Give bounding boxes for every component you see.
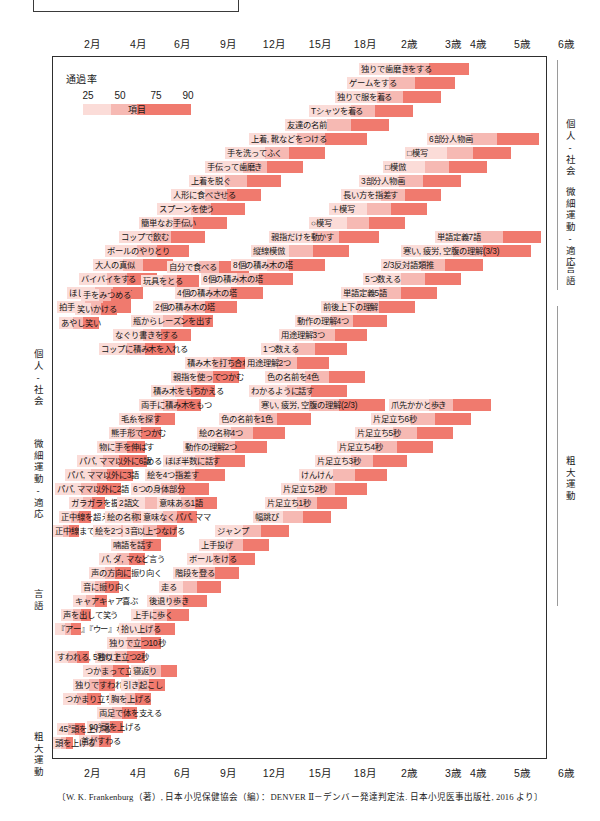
- axis-bottom-tick: 18月: [354, 765, 376, 780]
- milestone-bar-segment: [69, 525, 79, 537]
- milestone-bar: 階段を登る: [173, 567, 239, 579]
- milestone-bar-segment: [163, 315, 183, 327]
- axis-top-tick: 12月: [263, 36, 285, 51]
- milestone-bar: 3部分人物画: [359, 175, 461, 187]
- milestone-bar-segment: [199, 261, 219, 273]
- milestone-bar-segment: [277, 357, 297, 369]
- milestone-bar: 6個の積み木の塔: [201, 273, 293, 285]
- milestone-bar-segment: [235, 441, 267, 453]
- milestone-bar: 両手に積み木をもつ: [139, 399, 201, 411]
- milestone-bar-segment: [57, 723, 68, 735]
- milestone-bar-segment: [237, 273, 259, 285]
- milestone-bar-segment: [261, 343, 295, 355]
- axis-top-tick: 5歳: [514, 36, 530, 51]
- category-label-right: 微細運動-適応: [565, 187, 575, 269]
- milestone-bar-segment: [75, 303, 91, 315]
- milestone-bar: 親指を使ってつかむ: [171, 371, 239, 383]
- milestone-bar-segment: [68, 651, 77, 663]
- milestone-bar: 幅跳び: [253, 511, 331, 523]
- category-label-left: 微細運動-適応: [33, 439, 43, 521]
- milestone-bar-segment: [269, 231, 313, 243]
- milestone-bar-segment: [155, 623, 175, 635]
- milestone-bar-segment: [245, 357, 277, 369]
- milestone-bar-segment: [429, 63, 469, 75]
- milestone-bar-segment: [117, 497, 145, 509]
- milestone-bar-segment: [289, 147, 325, 159]
- milestone-bar-segment: [153, 609, 167, 621]
- milestone-bar-segment: [145, 343, 175, 355]
- milestone-bar-segment: [473, 147, 511, 159]
- axis-bottom-tick: 15月: [309, 765, 331, 780]
- milestone-bar-segment: [231, 287, 263, 299]
- milestone-bar: 片足立ち6秒: [371, 413, 471, 425]
- milestone-bar-segment: [103, 455, 119, 467]
- axis-bottom-tick: 6月: [174, 765, 190, 780]
- milestone-bar-segment: [453, 399, 491, 411]
- milestone-bar: 瓶からレーズンを出す: [131, 315, 213, 327]
- milestone-bar-segment: [391, 203, 427, 215]
- milestone-bar-segment: [131, 539, 143, 551]
- milestone-bar: 手を洗ってふく: [225, 147, 325, 159]
- legend-title: 通過率: [66, 71, 216, 86]
- milestone-bar-segment: [167, 261, 199, 273]
- milestone-bar-segment: [79, 735, 91, 747]
- milestone-bar-segment: [425, 161, 449, 173]
- milestone-bar: 上手投げ: [199, 539, 269, 551]
- milestone-bar-segment: [471, 133, 497, 145]
- milestone-bar-segment: [173, 567, 199, 579]
- milestone-bar-segment: [122, 707, 137, 719]
- milestone-bar-segment: [99, 343, 127, 355]
- milestone-bar-segment: [113, 329, 143, 341]
- milestone-bar-segment: [69, 497, 83, 509]
- milestone-bar-segment: [141, 275, 163, 287]
- header-stub-box: [33, 0, 239, 12]
- milestone-bar: 上着を脱ぐ: [189, 175, 281, 187]
- milestone-bar: なぐり書きをする: [113, 329, 191, 341]
- category-divider-rule: [557, 306, 558, 606]
- milestone-bar-segment: [449, 161, 487, 173]
- milestone-bar-segment: [503, 231, 541, 243]
- milestone-bar-segment: [281, 483, 315, 495]
- milestone-bar-segment: [169, 595, 183, 607]
- milestone-bar-segment: [401, 273, 425, 285]
- milestone-bar-segment: [289, 245, 313, 257]
- milestone-bar-segment: [219, 413, 255, 425]
- milestone-bar: 独りで服を着る: [335, 91, 441, 103]
- milestone-bar-segment: [183, 441, 215, 453]
- milestone-bar-segment: [123, 259, 143, 271]
- milestone-bar-segment: [209, 287, 231, 299]
- milestone-bar-segment: [339, 399, 385, 411]
- milestone-bar: わかるように話す: [249, 385, 347, 397]
- axis-bottom-tick: 3歳: [445, 765, 461, 780]
- milestone-bar-segment: [65, 469, 91, 481]
- milestone-bar-segment: [295, 343, 315, 355]
- milestone-bar-segment: [87, 721, 101, 733]
- milestone-bar-segment: [115, 441, 127, 453]
- milestone-bar-segment: [87, 693, 101, 705]
- milestone-bar-segment: [77, 693, 87, 705]
- milestone-bar: ボールをける: [187, 553, 255, 565]
- milestone-bar-segment: [73, 317, 83, 329]
- milestone-bar: 上着, 靴などをつける: [249, 133, 367, 145]
- milestone-bar-segment: [193, 217, 227, 229]
- milestone-bar-segment: [215, 525, 243, 537]
- milestone-bar-segment: [195, 469, 225, 481]
- milestone-bar-segment: [249, 133, 297, 145]
- milestone-bar-segment: [175, 287, 209, 299]
- milestone-bar-segment: [255, 413, 277, 425]
- milestone-bar-segment: [183, 581, 197, 593]
- milestone-bar: □模倣: [383, 161, 487, 173]
- milestone-bar: 玩具をとる: [141, 275, 199, 287]
- milestone-bar-segment: [309, 105, 351, 117]
- milestone-bar-segment: [141, 511, 163, 523]
- milestone-bar-segment: [95, 581, 105, 593]
- milestone-bar: あやし笑い: [59, 317, 99, 329]
- milestone-bar-segment: [135, 693, 151, 705]
- milestone-bar-segment: [175, 469, 195, 481]
- milestone-bar-segment: [91, 735, 99, 747]
- milestone-bar-segment: [125, 693, 135, 705]
- axis-top-tick: 3歳: [445, 36, 461, 51]
- milestone-bar-segment: [303, 511, 331, 523]
- milestone-bar: 友達の名前: [285, 119, 389, 131]
- milestone-bar-segment: [101, 303, 117, 315]
